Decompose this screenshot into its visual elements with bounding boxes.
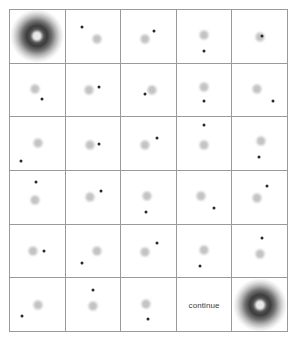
grid-cell-r4c5[interactable] <box>232 171 288 225</box>
glow-core-icon <box>255 300 264 309</box>
grid-cell-r1c3[interactable] <box>121 10 177 64</box>
probe-dot-icon <box>98 86 101 89</box>
target-circle-icon <box>86 193 95 202</box>
probe-dot-icon <box>80 261 83 264</box>
probe-dot-icon <box>156 242 159 245</box>
target-circle-icon <box>200 83 209 92</box>
probe-dot-icon <box>21 315 24 318</box>
grid-cell-r4c2[interactable] <box>66 171 122 225</box>
target-circle-icon <box>200 31 209 40</box>
target-circle-icon <box>200 140 209 149</box>
grid-cell-r2c1[interactable] <box>10 64 66 118</box>
target-circle-icon <box>197 192 206 201</box>
grid-cell-r5c1[interactable] <box>10 225 66 279</box>
target-circle-icon <box>252 84 261 93</box>
grid-cell-r2c2[interactable] <box>66 64 122 118</box>
probe-dot-icon <box>260 237 263 240</box>
probe-dot-icon <box>98 142 101 145</box>
grid-cell-r4c4[interactable] <box>177 171 233 225</box>
grid-cell-r3c5[interactable] <box>232 117 288 171</box>
probe-dot-icon <box>40 98 43 101</box>
probe-dot-icon <box>203 99 206 102</box>
probe-dot-icon <box>99 190 102 193</box>
probe-dot-icon <box>203 50 206 53</box>
grid-cell-r5c2[interactable] <box>66 225 122 279</box>
target-circle-icon <box>148 85 157 94</box>
grid-cell-r1c2[interactable] <box>66 10 122 64</box>
grid-cell-r6c5[interactable] <box>232 278 288 332</box>
probe-dot-icon <box>271 99 274 102</box>
probe-dot-icon <box>144 211 147 214</box>
grid-cell-r6c4[interactable]: continue <box>177 278 233 332</box>
continue-label[interactable]: continue <box>189 300 220 309</box>
probe-dot-icon <box>152 30 155 33</box>
target-circle-icon <box>34 138 43 147</box>
stimulus-grid: continue <box>9 9 288 332</box>
target-circle-icon <box>85 85 94 94</box>
grid-cell-r2c5[interactable] <box>232 64 288 118</box>
grid-cell-r3c4[interactable] <box>177 117 233 171</box>
probe-dot-icon <box>91 288 94 291</box>
probe-dot-icon <box>19 159 22 162</box>
target-circle-icon <box>29 246 38 255</box>
grid-cell-r5c3[interactable] <box>121 225 177 279</box>
grid-cell-r5c4[interactable] <box>177 225 233 279</box>
target-circle-icon <box>141 299 150 308</box>
target-circle-icon <box>200 245 209 254</box>
target-circle-icon <box>92 35 101 44</box>
target-circle-icon <box>88 301 97 310</box>
target-circle-icon <box>86 140 95 149</box>
grid-cell-r5c5[interactable] <box>232 225 288 279</box>
grid-cell-r3c3[interactable] <box>121 117 177 171</box>
grid-cell-r4c3[interactable] <box>121 171 177 225</box>
probe-dot-icon <box>266 184 269 187</box>
grid-cell-r3c1[interactable] <box>10 117 66 171</box>
grid-cell-r6c3[interactable] <box>121 278 177 332</box>
target-circle-icon <box>252 194 261 203</box>
probe-dot-icon <box>198 264 201 267</box>
target-circle-icon <box>140 140 149 149</box>
probe-dot-icon <box>212 206 215 209</box>
target-circle-icon <box>34 300 43 309</box>
grid-cell-r6c1[interactable] <box>10 278 66 332</box>
probe-dot-icon <box>156 137 159 140</box>
grid-cell-r2c3[interactable] <box>121 64 177 118</box>
probe-dot-icon <box>42 249 45 252</box>
probe-dot-icon <box>80 25 83 28</box>
target-circle-icon <box>30 84 39 93</box>
grid-cell-r2c4[interactable] <box>177 64 233 118</box>
glow-core-icon <box>33 32 42 41</box>
grid-cell-r4c1[interactable] <box>10 171 66 225</box>
target-circle-icon <box>140 248 149 257</box>
probe-dot-icon <box>147 318 150 321</box>
grid-cell-r1c5[interactable] <box>232 10 288 64</box>
target-circle-icon <box>256 137 265 146</box>
target-circle-icon <box>142 192 151 201</box>
target-circle-icon <box>255 249 264 258</box>
target-circle-icon <box>140 35 149 44</box>
target-circle-icon <box>92 246 101 255</box>
probe-dot-icon <box>203 123 206 126</box>
grid-cell-r1c1[interactable] <box>10 10 66 64</box>
probe-dot-icon <box>144 92 147 95</box>
probe-dot-icon <box>34 180 37 183</box>
grid-cell-r1c4[interactable] <box>177 10 233 64</box>
probe-dot-icon <box>261 35 264 38</box>
target-circle-icon <box>30 195 39 204</box>
probe-dot-icon <box>257 155 260 158</box>
grid-cell-r6c2[interactable] <box>66 278 122 332</box>
grid-cell-r3c2[interactable] <box>66 117 122 171</box>
